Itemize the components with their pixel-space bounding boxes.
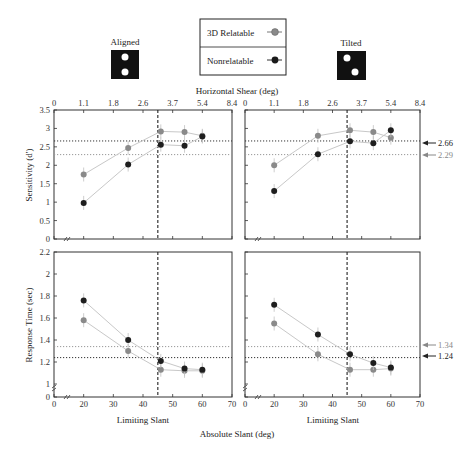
data-point <box>158 358 164 364</box>
data-point <box>347 367 353 373</box>
data-point <box>81 317 87 323</box>
x-tick-label: 30 <box>109 399 118 409</box>
sens-ref-dark-marker <box>422 141 436 146</box>
data-point <box>388 365 394 371</box>
data-point <box>370 129 376 135</box>
x-tick-label: 60 <box>387 399 396 409</box>
panel-tilted-response-time: 0203040506070 <box>243 252 424 409</box>
bottom-right-x-axis-title: Limiting Slant <box>307 415 360 425</box>
top-left-shear-ticks: 01.11.82.63.75.48.4 <box>52 98 238 113</box>
data-point <box>81 297 87 303</box>
data-point <box>370 140 376 146</box>
panel-aligned-sensitivity: 00.511.522.533.5 <box>39 105 232 244</box>
data-point <box>182 129 188 135</box>
data-point <box>158 128 164 134</box>
data-point <box>125 337 131 343</box>
aligned-stimulus-icon <box>111 50 139 79</box>
shear-tick-label: 8.4 <box>227 98 238 108</box>
x-tick-label: 0 <box>52 399 56 409</box>
x-tick-label: 50 <box>168 399 177 409</box>
shear-tick-label: 5.4 <box>197 98 208 108</box>
x-tick-label: 70 <box>416 399 425 409</box>
top-right-shear-ticks: 01.11.82.63.75.48.4 <box>243 98 426 113</box>
aligned-label: Aligned <box>111 37 140 47</box>
tilted-label: Tilted <box>340 38 362 48</box>
x-tick-label: 50 <box>357 399 366 409</box>
rt-ref-gray-label: 1.34 <box>438 340 454 350</box>
y-tick-label: 1 <box>46 197 50 207</box>
y-tick-label: 2.2 <box>39 247 50 257</box>
data-point <box>315 133 321 139</box>
x-tick-label: 0 <box>243 399 247 409</box>
tilted-stimulus-icon <box>337 51 366 80</box>
panel-tilted-sensitivity <box>245 110 420 241</box>
shear-tick-label: 1.8 <box>108 98 119 108</box>
data-point <box>370 360 376 366</box>
y-tick-label: 0.5 <box>39 216 50 226</box>
plot-frame <box>54 252 232 397</box>
data-point <box>182 143 188 149</box>
shear-tick-label: 8.4 <box>415 98 426 108</box>
data-point <box>315 332 321 338</box>
y-tick-label: 1.5 <box>39 179 50 189</box>
data-point <box>315 151 321 157</box>
x-tick-label: 70 <box>228 399 237 409</box>
data-point <box>347 138 353 144</box>
y-tick-label: 3.5 <box>39 105 50 115</box>
data-point <box>158 142 164 148</box>
data-point <box>125 348 131 354</box>
data-point <box>271 321 277 327</box>
data-point <box>271 162 277 168</box>
shear-tick-label: 2.6 <box>138 98 149 108</box>
data-point <box>182 366 188 372</box>
shear-tick-label: 0 <box>243 98 247 108</box>
x-tick-label: 40 <box>328 399 337 409</box>
data-point <box>271 302 277 308</box>
data-point <box>271 188 277 194</box>
shear-tick-label: 3.7 <box>356 98 367 108</box>
x-tick-label: 60 <box>198 399 207 409</box>
data-point <box>347 351 353 357</box>
legend-label-nonrelatable: Nonrelatable <box>207 56 253 66</box>
y-tick-label: 1.4 <box>39 335 50 345</box>
data-point <box>199 367 205 373</box>
rt-ref-dark-label: 1.24 <box>438 351 454 361</box>
y-tick-label: 1.6 <box>39 313 50 323</box>
x-tick-label: 20 <box>79 399 88 409</box>
shear-tick-label: 3.7 <box>167 98 178 108</box>
legend-label-relatable: 3D Relatable <box>207 28 254 38</box>
y-tick-label: 2.5 <box>39 142 50 152</box>
data-point <box>315 351 321 357</box>
data-point <box>199 134 205 140</box>
shared-x-axis-title: Absolute Slant (deg) <box>200 429 275 439</box>
rt-y-axis-title: Response Time (sec) <box>24 288 34 363</box>
data-point <box>347 127 353 133</box>
shear-tick-label: 1.1 <box>78 98 89 108</box>
x-tick-label: 30 <box>299 399 308 409</box>
figure: Aligned Tilted 3D Relatable Nonrelatable… <box>0 0 471 455</box>
panel-aligned-response-time: 011.21.41.61.822.20203040506070 <box>39 247 236 409</box>
rt-ref-dark-marker <box>422 354 436 359</box>
x-tick-label: 20 <box>270 399 279 409</box>
shear-tick-label: 1.1 <box>269 98 280 108</box>
shear-tick-label: 5.4 <box>386 98 397 108</box>
sens-ref-gray-label: 2.29 <box>438 150 453 160</box>
y-tick-label: 0 <box>46 234 50 244</box>
shear-tick-label: 2.6 <box>327 98 338 108</box>
y-tick-label: 1 <box>46 379 50 389</box>
y-tick-label: 3 <box>46 123 50 133</box>
x-tick-label: 40 <box>139 399 148 409</box>
sens-ref-gray-marker <box>422 153 436 158</box>
sensitivity-y-axis-title: Sensitivity (d') <box>24 149 34 202</box>
shear-tick-label: 0 <box>52 98 56 108</box>
rt-ref-gray-marker <box>422 343 436 348</box>
y-tick-label: 0 <box>46 392 50 402</box>
data-point <box>125 145 131 151</box>
sens-ref-dark-label: 2.66 <box>438 138 453 148</box>
shear-tick-label: 1.8 <box>298 98 309 108</box>
y-tick-label: 2 <box>46 269 50 279</box>
data-point <box>81 200 87 206</box>
plot-frame <box>245 110 420 239</box>
y-tick-label: 1.8 <box>39 291 50 301</box>
legend: 3D Relatable Nonrelatable <box>200 19 286 75</box>
